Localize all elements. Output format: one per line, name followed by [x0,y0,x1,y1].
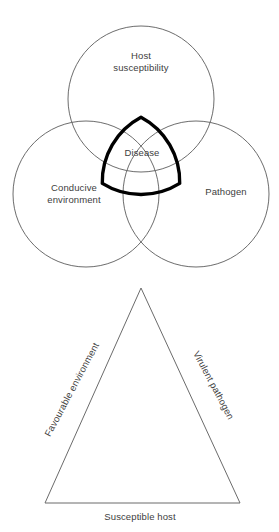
venn-label-disease: Disease [106,147,178,159]
venn-label-pathogen: Pathogen [186,186,266,198]
triangle-diagram-panel: Disease [0,278,279,532]
venn-diagram-panel: Host susceptibility Conducive environmen… [0,0,279,278]
triangle-label-susceptible-host: Susceptible host [80,511,200,523]
triangle-outline-layer [0,278,279,532]
disease-triangle-figure: Host susceptibility Conducive environmen… [0,0,279,532]
venn-label-conducive-environment: Conducive environment [22,182,126,206]
venn-circles-layer [0,0,279,278]
venn-label-host-susceptibility: Host susceptibility [91,50,191,74]
